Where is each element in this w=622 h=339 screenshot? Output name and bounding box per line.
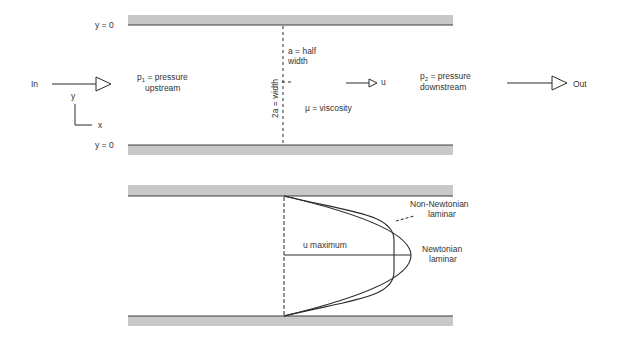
velocity-profile-diagram: u maximum Non-Newtonian laminar Newtonia…	[128, 185, 469, 326]
half-width-label-line2: width	[287, 56, 308, 66]
flow-diagram: y = 0 y = 0 In y x p1 = pressure upstrea…	[0, 0, 622, 339]
axis-x-label: x	[98, 120, 103, 130]
outlet-arrow-icon	[507, 76, 567, 90]
non-newtonian-profile-curve	[284, 196, 394, 316]
channel-diagram: y = 0 y = 0 In y x p1 = pressure upstrea…	[31, 15, 587, 155]
axis-y-label: y	[71, 91, 76, 101]
full-width-label: 2a = width	[270, 79, 280, 118]
u-max-label: u maximum	[303, 240, 347, 250]
half-width-label-line1: a = half	[288, 46, 317, 56]
bottom-wall	[128, 145, 453, 155]
viscosity-label: μ = viscosity	[305, 103, 352, 113]
bottom-wall-label: y = 0	[95, 140, 114, 150]
upstream-pressure-label: p1 = pressure	[137, 72, 188, 83]
top-wall-label: y = 0	[95, 20, 114, 30]
profile-top-wall	[128, 185, 453, 196]
newtonian-label-line2: laminar	[429, 254, 457, 264]
axes-icon	[75, 104, 92, 125]
non-newtonian-leader-line	[396, 216, 414, 221]
newtonian-profile-curve	[284, 196, 411, 316]
velocity-arrow-icon	[346, 79, 377, 87]
downstream-label-line2: downstream	[420, 82, 466, 92]
upstream-label-line2: upstream	[145, 83, 180, 93]
outlet-label: Out	[573, 79, 587, 89]
inlet-label: In	[31, 79, 38, 89]
profile-bottom-wall	[128, 316, 453, 326]
inlet-arrow-icon	[52, 77, 111, 91]
non-newtonian-label-line2: laminar	[428, 209, 456, 219]
velocity-label: u	[381, 77, 386, 87]
downstream-pressure-label: p2 = pressure	[420, 71, 471, 82]
non-newtonian-label-line1: Non-Newtonian	[410, 199, 469, 209]
top-wall	[128, 15, 453, 25]
newtonian-label-line1: Newtonian	[422, 244, 462, 254]
